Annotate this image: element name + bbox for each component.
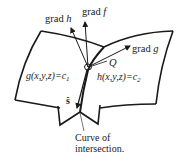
level-surfaces-diagram: grad h grad f grad g Q g(x,y,z)=c1 h(x,y… — [0, 0, 183, 157]
curve-label-leader — [80, 113, 84, 131]
surface-g-label: g(x,y,z)=c1 — [26, 70, 70, 83]
tangent-label: ŝ — [66, 95, 70, 106]
surface-h-label: h(x,y,z)=c2 — [97, 71, 141, 84]
grad-h-label: grad h — [45, 13, 72, 24]
curve-label-line1: Curve of — [75, 132, 111, 143]
surface-lower-flaps — [58, 105, 100, 125]
grad-f-label: grad f — [82, 6, 108, 17]
curve-label-line2: intersection. — [75, 143, 124, 154]
grad-g-label: grad g — [132, 43, 159, 54]
point-q-label: Q — [109, 57, 117, 68]
